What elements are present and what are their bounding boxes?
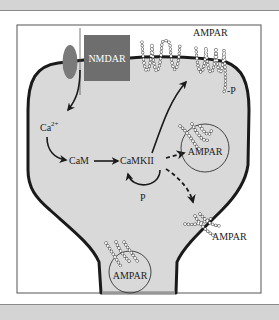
nmdar-label: NMDAR bbox=[88, 53, 126, 64]
channel-ellipse bbox=[63, 45, 78, 79]
camkii-label: CaMKII bbox=[120, 155, 154, 166]
ampar-vesicle-neck-label: AMPAR bbox=[113, 270, 148, 281]
ampar-top-label: AMPAR bbox=[193, 27, 228, 38]
ampar-lateral-label: AMPAR bbox=[212, 231, 247, 242]
cam-label: CaM bbox=[69, 155, 89, 166]
loop-p-label: P bbox=[140, 192, 146, 203]
ampar-vesicle-upper-label: AMPAR bbox=[188, 146, 223, 157]
phospho-top-label: -P bbox=[227, 85, 236, 96]
